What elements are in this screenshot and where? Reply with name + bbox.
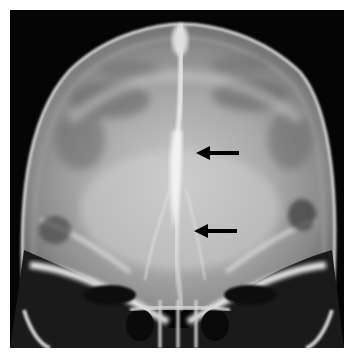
radiograph-image	[10, 10, 344, 348]
skull-xray-illustration	[10, 10, 344, 348]
